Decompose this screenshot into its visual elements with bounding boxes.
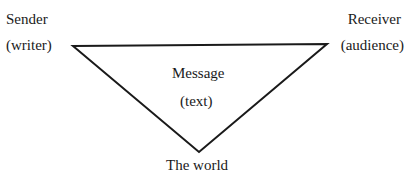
world-label: The world [166, 156, 228, 174]
receiver-sublabel: (audience) [341, 36, 404, 54]
message-label: Message [172, 64, 225, 82]
message-sublabel: (text) [180, 92, 212, 110]
sender-label: Sender [6, 10, 48, 28]
communication-triangle-diagram: Sender (writer) Receiver (audience) Mess… [0, 0, 411, 178]
sender-sublabel: (writer) [6, 36, 52, 54]
receiver-label: Receiver [348, 10, 401, 28]
